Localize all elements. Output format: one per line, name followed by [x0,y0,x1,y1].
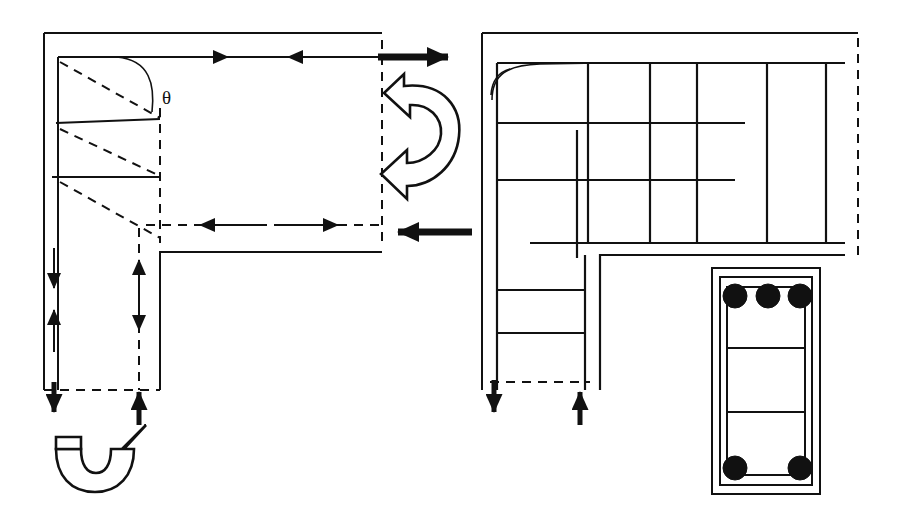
rebar-cross-section [712,268,820,494]
bent-bar-hook [492,63,600,100]
right-panel [482,33,858,425]
theta-label: θ [162,87,171,108]
strain-line-upper [56,119,160,123]
rebar-bottom-right [788,456,812,480]
section-stirrup [727,287,805,475]
deformed-diagonal-3 [60,182,160,238]
right-outer-boundary [482,33,858,390]
rebar-top-left [723,284,747,308]
structural-diagram-svg: θ [0,0,898,529]
left-outer-boundary [44,33,382,390]
left-inner-corner [160,252,382,390]
rebar-top-center [756,284,780,308]
moment-arrow-counterclockwise-bottom [56,425,146,492]
moment-arrow-clockwise-top [381,74,459,199]
right-inner-corner [600,255,845,390]
rebar-bottom-left [723,456,747,480]
rebar-top-right [788,284,812,308]
bent-bar-hook-tail [491,69,510,95]
figure-canvas: θ [0,0,898,529]
left-panel: θ [44,33,472,492]
deformed-diagonal-2 [60,129,160,176]
